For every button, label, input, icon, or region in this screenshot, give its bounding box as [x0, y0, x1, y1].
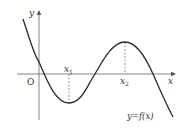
x2-label: x2: [120, 76, 129, 87]
cubic-curve: [23, 19, 173, 117]
function-graph: y x O x1 x2 y=f(x): [0, 0, 183, 134]
y-axis-label: y: [28, 8, 35, 18]
x-axis-label: x: [168, 76, 173, 86]
origin-label: O: [27, 77, 34, 87]
x1-label: x1: [64, 64, 73, 75]
curve-label: y=f(x): [126, 111, 154, 121]
